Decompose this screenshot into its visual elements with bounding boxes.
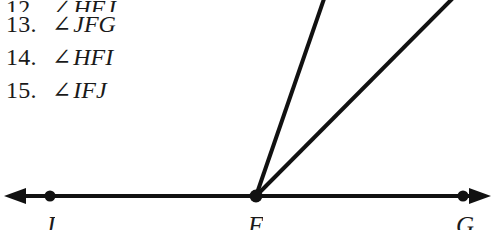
point-G-dot [458, 191, 469, 202]
point-label-G: G [456, 213, 474, 230]
diagram-canvas [0, 0, 494, 231]
ray-FH [256, 0, 325, 196]
point-J-dot [45, 191, 56, 202]
right-arrowhead-icon [469, 188, 491, 204]
point-label-J: J [44, 213, 55, 230]
left-arrowhead-icon [4, 188, 26, 204]
geometry-diagram: J F G [0, 0, 494, 231]
ray-FI [256, 0, 455, 196]
point-F-vertex-dot [250, 190, 263, 203]
scanned-page: 12. ∠HFJ 13. ∠JFG 14. ∠HFI 15. ∠IFJ [0, 0, 494, 231]
point-label-F: F [248, 213, 263, 230]
